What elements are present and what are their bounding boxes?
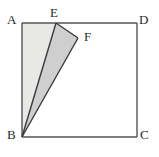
geometry-canvas xyxy=(0,0,159,157)
geometry-figure: A B C D E F xyxy=(0,0,159,157)
vertex-label-c: C xyxy=(140,128,149,141)
vertex-label-b: B xyxy=(7,128,16,141)
vertex-label-f: F xyxy=(84,30,91,43)
vertex-label-d: D xyxy=(139,13,148,26)
vertex-label-e: E xyxy=(50,6,58,19)
vertex-label-a: A xyxy=(7,13,16,26)
